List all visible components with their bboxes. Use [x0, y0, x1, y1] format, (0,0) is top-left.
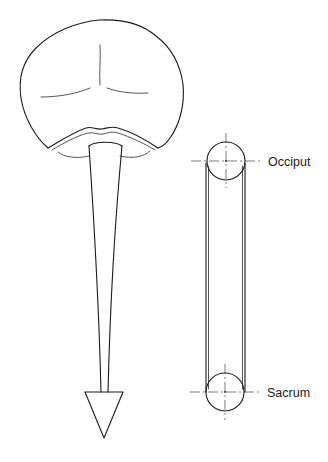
diagram-canvas: Occiput Sacrum [0, 0, 328, 462]
central-sulcus [100, 45, 101, 85]
occiput-label: Occiput [268, 155, 311, 169]
spinal-stem-right [108, 146, 122, 392]
spinal-stem-left [89, 146, 101, 392]
sacrum-label: Sacrum [267, 386, 310, 400]
temporal-fold-inner [52, 132, 155, 150]
left-sulcus [41, 88, 90, 97]
arrowhead-down-icon [85, 392, 123, 438]
occiput-center-dot [225, 160, 227, 162]
cerebellum-right [120, 151, 150, 157]
sacrum-center-dot [224, 391, 226, 393]
right-sulcus [107, 88, 148, 93]
pulley-model: Occiput Sacrum [190, 133, 311, 420]
temporal-fold-outer [48, 127, 158, 148]
brain-figure [20, 20, 183, 438]
brainstem-cap [89, 142, 122, 146]
cerebellum-left [58, 152, 89, 157]
